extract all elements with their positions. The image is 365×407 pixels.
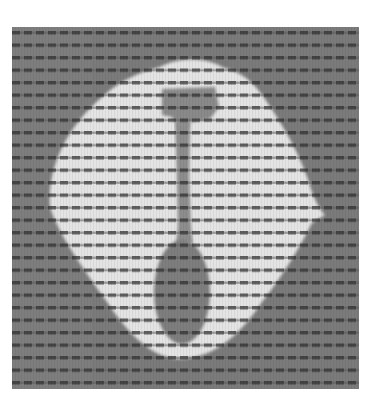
horizontal-stripes [12,27,359,389]
scan-image [12,27,359,389]
